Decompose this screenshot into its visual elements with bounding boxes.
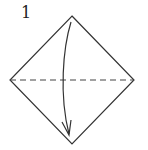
fold-arrow-icon bbox=[62, 22, 71, 135]
origami-diagram bbox=[0, 0, 148, 150]
